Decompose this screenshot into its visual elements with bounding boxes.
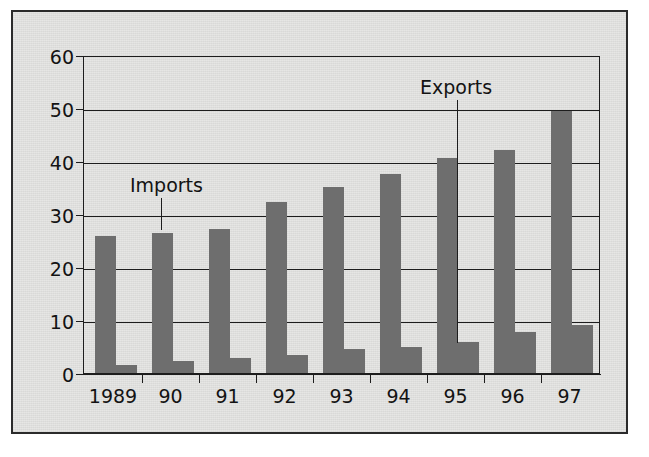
x-axis-tick-mark-6 [484,374,485,383]
y-axis-tick-label-60: 60 [28,46,74,68]
bar-chart: 60 50 40 30 20 10 0 [0,0,649,457]
x-axis-tick-mark-7 [541,374,542,383]
bar-exports-96 [515,332,536,373]
bar-exports-92 [287,355,308,373]
annotation-label-exports: Exports [420,76,492,98]
annotation-label-imports: Imports [130,174,203,196]
figure-canvas: 60 50 40 30 20 10 0 [0,0,649,457]
x-axis-tick-mark-4 [370,374,371,383]
bar-imports-91 [209,229,230,373]
annotation-leader-line-imports [161,198,162,230]
y-axis-tick-label-30: 30 [28,205,74,227]
bar-exports-93 [344,349,365,373]
bar-exports-1989 [116,365,137,373]
y-axis-tick-label-20: 20 [28,258,74,280]
bar-imports-90 [152,233,173,373]
y-axis-tick-label-10: 10 [28,311,74,333]
gridline-50 [84,110,599,111]
bar-exports-90 [173,361,194,373]
x-axis-tick-label-93: 93 [313,385,370,407]
bar-imports-94 [380,174,401,373]
x-axis-line [83,374,601,375]
x-axis-tick-label-97: 97 [541,385,598,407]
bar-imports-1989 [95,236,116,373]
x-axis-tick-label-96: 96 [484,385,541,407]
y-axis-tick-label-0: 0 [28,364,74,386]
bar-imports-93 [323,187,344,373]
x-axis-tick-label-91: 91 [199,385,256,407]
x-axis-tick-label-94: 94 [370,385,427,407]
x-axis-tick-mark-2 [256,374,257,383]
bar-exports-97 [572,325,593,373]
y-axis-tick-label-40: 40 [28,152,74,174]
x-axis-tick-label-90: 90 [142,385,199,407]
x-axis-tick-mark-0 [142,374,143,383]
bar-imports-97 [551,111,572,373]
bar-exports-95 [458,342,479,373]
x-axis-tick-label-95: 95 [427,385,484,407]
bar-exports-94 [401,347,422,373]
bar-imports-96 [494,150,515,373]
bar-imports-95 [437,158,458,373]
x-axis-tick-mark-1 [199,374,200,383]
x-axis-tick-mark-5 [427,374,428,383]
gridline-40 [84,163,599,164]
x-axis-tick-label-1989: 1989 [83,385,143,407]
bar-exports-91 [230,358,251,373]
y-axis-tick-label-50: 50 [28,99,74,121]
bar-imports-92 [266,202,287,373]
annotation-leader-line-exports [457,100,458,343]
x-axis-tick-mark-3 [313,374,314,383]
x-axis-tick-label-92: 92 [256,385,313,407]
